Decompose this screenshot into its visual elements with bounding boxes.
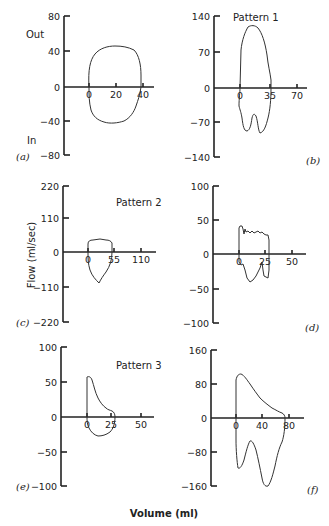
y-tick: 110: [41, 213, 59, 224]
y-tick: −70: [190, 117, 210, 128]
panel-label: (d): [305, 322, 319, 333]
panel-label: (a): [16, 151, 30, 162]
y-tick: 40: [48, 46, 60, 57]
y-tick: 0: [203, 249, 209, 260]
y-tick: 80: [48, 11, 60, 22]
x-tick: 70: [291, 90, 303, 101]
panel-a: 80 40 0 −40 −80 0 20 40 Out In (a): [16, 11, 154, 162]
x-tick: 20: [110, 89, 122, 100]
y-tick: 50: [197, 215, 209, 226]
x-tick: 40: [256, 420, 268, 431]
y-tick: 160: [189, 345, 207, 356]
in-label: In: [27, 135, 36, 146]
y-tick: 0: [53, 247, 59, 258]
panel-title: Pattern 2: [116, 197, 162, 208]
y-tick: −160: [181, 481, 207, 492]
y-axis-label: Flow (ml/sec): [26, 222, 37, 289]
y-tick: 140: [192, 11, 210, 22]
x-tick: 50: [286, 256, 298, 267]
panel-b: 140 70 0 −70 −140 0 35 70 Pattern 1 (b): [184, 11, 320, 166]
y-tick: −40: [40, 116, 60, 127]
panel-d: 100 50 0 −50 −100 0 25 50 (d): [183, 181, 319, 333]
y-tick: −80: [40, 150, 60, 161]
y-tick: 100: [39, 342, 57, 353]
y-tick: 0: [201, 413, 207, 424]
panel-label: (c): [16, 317, 30, 328]
panel-label: (f): [307, 484, 319, 495]
y-tick: −50: [189, 284, 209, 295]
y-tick: 100: [191, 181, 209, 192]
panel-c: 220 110 0 −110 −220 0 55 110 Pattern 2 (…: [16, 181, 162, 328]
y-tick: −100: [183, 318, 209, 329]
panel-label: (b): [306, 155, 320, 166]
x-tick: 35: [264, 90, 276, 101]
y-tick: 0: [204, 83, 210, 94]
x-tick: 50: [135, 419, 147, 430]
out-label: Out: [26, 29, 44, 40]
y-tick: 0: [54, 82, 60, 93]
panel-title: Pattern 1: [233, 12, 279, 23]
y-tick: 0: [51, 412, 57, 423]
panel-f: 160 80 0 −80 −160 0 40 80 (f): [181, 345, 319, 495]
flow-volume-figure: 80 40 0 −40 −80 0 20 40 Out In (a) 140 7…: [0, 0, 329, 526]
y-tick: −220: [33, 317, 59, 328]
y-tick: 80: [195, 379, 207, 390]
y-tick: −80: [187, 447, 207, 458]
y-tick: 70: [198, 47, 210, 58]
loop-curve: [89, 46, 141, 123]
y-tick: −50: [37, 447, 57, 458]
panel-e: 100 50 0 −50 −100 0 25 50 Pattern 3 (e): [16, 342, 162, 492]
y-tick: 220: [41, 181, 59, 192]
y-tick: −100: [31, 481, 57, 492]
x-tick: 110: [132, 254, 150, 265]
loop-curve: [239, 26, 271, 133]
panel-label: (e): [16, 481, 30, 492]
panel-title: Pattern 3: [116, 360, 162, 371]
y-tick: −140: [184, 152, 210, 163]
x-axis-label: Volume (ml): [130, 508, 198, 519]
y-tick: 50: [45, 377, 57, 388]
